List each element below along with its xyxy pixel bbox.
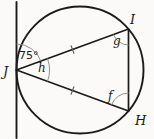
angle-arc-h [48, 59, 50, 82]
circle-outline [17, 7, 144, 134]
label-angle-h: h [38, 61, 46, 75]
label-point-h: H [134, 113, 147, 128]
label-angle-g: g [113, 34, 121, 48]
geometry-figure: J I H 75° h g f [0, 0, 154, 139]
diagram-canvas: J I H 75° h g f [0, 0, 154, 139]
label-angle-75: 75° [19, 49, 39, 62]
label-point-i: I [129, 12, 136, 27]
angle-arc-f [112, 93, 129, 105]
label-point-j: J [0, 64, 9, 79]
